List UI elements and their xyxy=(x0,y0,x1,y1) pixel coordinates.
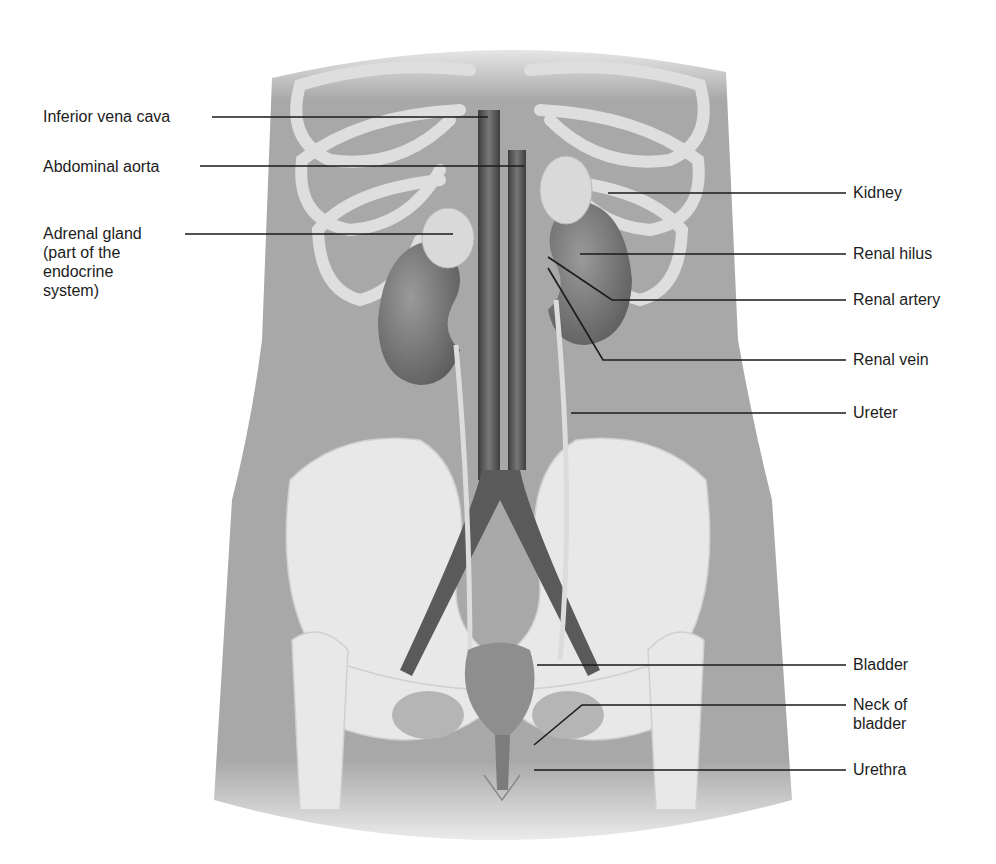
label-ureter: Ureter xyxy=(853,403,897,422)
label-neck-of-bladder-line-1: Neck of xyxy=(853,695,907,714)
label-urethra: Urethra xyxy=(853,760,906,779)
anatomy-illustration xyxy=(0,0,996,864)
label-neck-of-bladder: Neck of bladder xyxy=(853,695,907,733)
label-adrenal-gland-line-4: system) xyxy=(43,281,142,300)
label-abdominal-aorta: Abdominal aorta xyxy=(43,157,160,176)
label-adrenal-gland: Adrenal gland (part of the endocrine sys… xyxy=(43,224,142,300)
label-renal-hilus: Renal hilus xyxy=(853,244,932,263)
label-inferior-vena-cava: Inferior vena cava xyxy=(43,107,170,126)
label-kidney: Kidney xyxy=(853,183,902,202)
label-adrenal-gland-line-3: endocrine xyxy=(43,262,142,281)
label-adrenal-gland-line-2: (part of the xyxy=(43,243,142,262)
label-neck-of-bladder-line-2: bladder xyxy=(853,714,907,733)
label-adrenal-gland-line-1: Adrenal gland xyxy=(43,224,142,243)
label-renal-artery: Renal artery xyxy=(853,290,940,309)
label-bladder: Bladder xyxy=(853,655,908,674)
urinary-system-diagram: Inferior vena cava Abdominal aorta Adren… xyxy=(0,0,996,864)
label-renal-vein: Renal vein xyxy=(853,350,929,369)
